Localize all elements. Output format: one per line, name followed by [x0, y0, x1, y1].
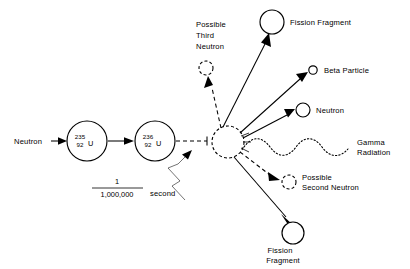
fission-fragment-bottom-circle [282, 222, 304, 244]
possible-third-neutron-circle [199, 61, 213, 75]
fission-diagram-canvas: Neutron 235 92 U 236 92 U [0, 0, 410, 269]
possible-third-neutron-label-line3: Neutron [196, 42, 224, 51]
fission-fragment-top-circle [260, 10, 284, 34]
gamma-radiation-wave [244, 139, 348, 156]
possible-third-neutron-ray [212, 88, 221, 128]
fission-fragment-bottom-ray [234, 157, 286, 217]
possible-second-neutron-circle [282, 175, 296, 189]
u235-to-u236-arrow [108, 137, 134, 145]
fission-fragment-top-arrowhead [261, 33, 271, 47]
product-possible-second-neutron: Possible Second Neutron [240, 152, 359, 192]
nucleus-u236-element: U [156, 139, 161, 148]
neutron-ray [243, 115, 287, 138]
nucleus-u236-atomic-number: 92 [145, 141, 152, 148]
beta-particle-label: Beta Particle [324, 66, 369, 75]
u236-to-compound-link [176, 137, 207, 146]
timing-unit: second [150, 189, 175, 198]
nucleus-u236: 236 92 U [135, 121, 175, 161]
compound-nucleus [212, 126, 251, 158]
incoming-neutron-label: Neutron [14, 137, 42, 146]
nucleus-u236-mass-number: 236 [143, 133, 154, 140]
timing-denominator: 1,000,000 [101, 190, 134, 199]
fission-fragment-top-label: Fission Fragment [290, 18, 352, 27]
beta-particle-circle [309, 66, 317, 74]
gamma-radiation-label-line2: Radiation [357, 148, 390, 157]
nucleus-u235-mass-number: 235 [75, 133, 86, 140]
timing-annotation: 1 1,000,000 second [92, 150, 192, 200]
possible-second-neutron-arrowhead [268, 172, 280, 181]
incoming-neutron-arrowhead [58, 137, 67, 145]
possible-third-neutron-label-line2: Third [196, 31, 214, 40]
compound-nucleus-circle [212, 126, 244, 158]
nucleus-u236-circle [135, 121, 175, 161]
possible-third-neutron-label-line1: Possible [196, 20, 226, 29]
fission-fragment-bottom-label-line1: Fission [267, 246, 292, 255]
fission-diagram: Neutron 235 92 U 236 92 U [0, 0, 410, 269]
possible-second-neutron-label-line2: Second Neutron [302, 183, 359, 192]
incoming-neutron-group: Neutron [14, 137, 67, 146]
nucleus-u235-element: U [88, 139, 93, 148]
possible-third-neutron-arrowhead [204, 76, 213, 88]
possible-second-neutron-label-line1: Possible [302, 173, 332, 182]
nucleus-u235-circle [67, 121, 107, 161]
fission-fragment-bottom-label-line2: Fragment [266, 256, 300, 265]
nucleus-u235-atomic-number: 92 [77, 141, 84, 148]
timing-numerator: 1 [115, 177, 119, 186]
nucleus-u235: 235 92 U [67, 121, 107, 161]
product-gamma-radiation: Gamma Radiation [244, 138, 390, 157]
timing-leader-arrowhead [182, 150, 192, 160]
neutron-label: Neutron [316, 106, 344, 115]
neutron-circle [296, 103, 310, 117]
product-neutron: Neutron [243, 103, 344, 138]
product-possible-third-neutron: Possible Third Neutron [196, 20, 226, 128]
u235-to-u236-arrowhead [124, 137, 134, 145]
possible-second-neutron-ray [240, 152, 270, 175]
gamma-radiation-label-line1: Gamma [357, 138, 385, 147]
beta-particle-ray [240, 79, 300, 133]
product-beta-particle: Beta Particle [240, 66, 369, 133]
